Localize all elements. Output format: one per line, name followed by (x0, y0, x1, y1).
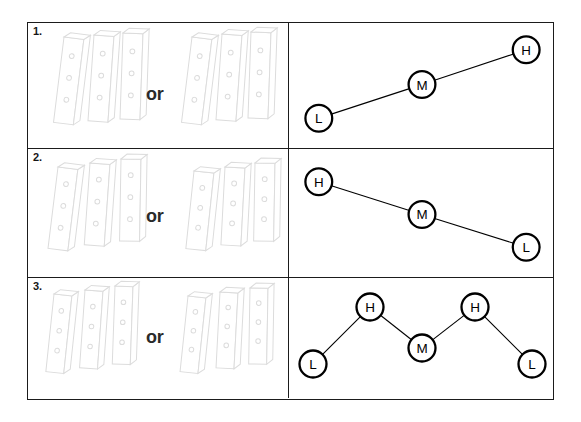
row-2-illustration-cell: 2. (28, 149, 289, 277)
diagram-edge (434, 218, 515, 243)
table-row: 1. (28, 23, 553, 149)
comparison-table: 1. (27, 22, 554, 400)
diagram-node-h[interactable]: H (305, 168, 332, 195)
diagram-edge (331, 185, 411, 210)
diagram-edge (322, 316, 361, 355)
diagram-node-m[interactable]: M (409, 201, 436, 228)
row-1-illustration-cell: 1. (28, 23, 289, 148)
row-2-diagram-cell: HML (289, 149, 553, 277)
diagram-edge (484, 316, 523, 355)
node-label: L (309, 357, 317, 372)
or-separator-label: or (146, 85, 163, 103)
node-link-diagram-row-1: LMH (289, 23, 553, 148)
diagram-node-m[interactable]: M (409, 71, 436, 98)
row-1-diagram-cell: LMH (289, 23, 553, 148)
or-separator-label: or (146, 207, 163, 225)
node-label: H (314, 175, 324, 190)
diagram-node-l[interactable]: L (300, 351, 327, 378)
node-label: H (365, 300, 375, 315)
node-label: H (470, 300, 480, 315)
node-label: L (522, 240, 529, 255)
node-link-diagram-row-2: HML (289, 149, 553, 277)
diagram-node-h[interactable]: H (357, 294, 384, 321)
diagram-node-m[interactable]: M (409, 335, 436, 362)
diagram-edge (331, 88, 411, 114)
table-row: 3. (28, 278, 553, 398)
node-label: M (416, 207, 427, 222)
diagram-node-l[interactable]: L (519, 351, 546, 378)
table-row: 2. (28, 149, 553, 278)
diagram-node-h[interactable]: H (462, 294, 489, 321)
node-link-diagram-row-3: LHMHL (289, 278, 553, 398)
node-label: M (416, 78, 427, 93)
screenshot-canvas: 1. (0, 0, 581, 422)
or-separator-label: or (146, 328, 163, 346)
diagram-edge (380, 315, 412, 341)
node-label: L (528, 357, 536, 372)
diagram-node-l[interactable]: L (513, 234, 540, 261)
diagram-node-l[interactable]: L (305, 105, 332, 132)
node-label: M (416, 341, 427, 356)
diagram-edge (434, 54, 515, 81)
row-3-diagram-cell: LHMHL (289, 278, 553, 398)
diagram-node-h[interactable]: H (513, 36, 540, 63)
row-3-illustration-cell: 3. (28, 278, 289, 398)
node-label: L (315, 111, 322, 126)
diagram-edge (432, 315, 465, 341)
node-label: H (521, 43, 531, 58)
